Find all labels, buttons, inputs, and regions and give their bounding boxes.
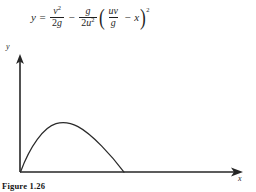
equation-term2-denominator: 2u2 bbox=[79, 17, 96, 29]
figure-caption: Figure 1.26 bbox=[2, 181, 45, 191]
trajectory-curve bbox=[21, 123, 125, 172]
equation-term1-numerator: v2 bbox=[51, 6, 63, 17]
equation-inner-numerator-variables: uv bbox=[109, 5, 118, 16]
equation-parenthesized-group: ( uv g − x ) 2 bbox=[98, 6, 151, 28]
equation-term1-denominator: 2g bbox=[50, 17, 64, 29]
equation-inner-fraction: uv g bbox=[107, 6, 120, 28]
equation-inner-variable-x: x bbox=[134, 11, 139, 23]
equation-term2-denominator-exponent: 2 bbox=[91, 16, 94, 23]
equation-term1-fraction: v2 2g bbox=[50, 6, 64, 28]
x-axis-label: x bbox=[238, 174, 242, 183]
equation-inner-minus-sign: − bbox=[121, 11, 134, 23]
equation-minus-sign-1: − bbox=[65, 11, 78, 23]
equation-group-exponent: 2 bbox=[146, 6, 149, 13]
equation-term2-fraction: g 2u2 bbox=[79, 6, 96, 28]
equation-term1-denominator-variable: g bbox=[57, 17, 62, 28]
equation-inner-denominator: g bbox=[109, 17, 118, 29]
equation-term1-numerator-exponent: 2 bbox=[58, 4, 61, 11]
equation-equals-sign: = bbox=[36, 11, 49, 23]
equation-inner-denominator-variable: g bbox=[111, 17, 116, 28]
equation-expression: y = v2 2g − g 2u2 ( uv g − x ) 2 bbox=[31, 2, 150, 32]
trajectory-plot-svg bbox=[0, 38, 256, 178]
figure-plot: y x bbox=[0, 38, 256, 178]
equation-term2-numerator-variable: g bbox=[85, 5, 90, 16]
equation-open-paren: ( bbox=[99, 10, 105, 25]
y-axis-label: y bbox=[6, 42, 10, 51]
equation-inner-numerator: uv bbox=[107, 6, 120, 17]
